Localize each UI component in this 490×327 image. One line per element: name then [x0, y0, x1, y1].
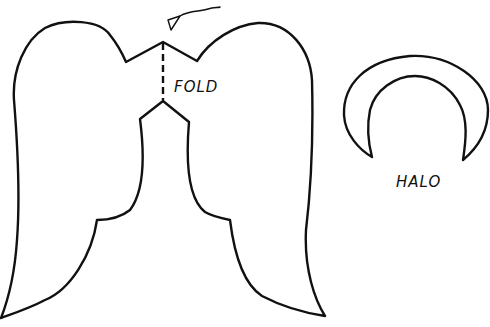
arrow-line-icon	[180, 7, 220, 16]
halo-outline	[344, 56, 488, 160]
template-drawing	[0, 0, 490, 327]
halo-label: HALO	[396, 173, 441, 191]
fold-label: FOLD	[174, 78, 218, 96]
arrow-head-icon	[168, 16, 180, 30]
